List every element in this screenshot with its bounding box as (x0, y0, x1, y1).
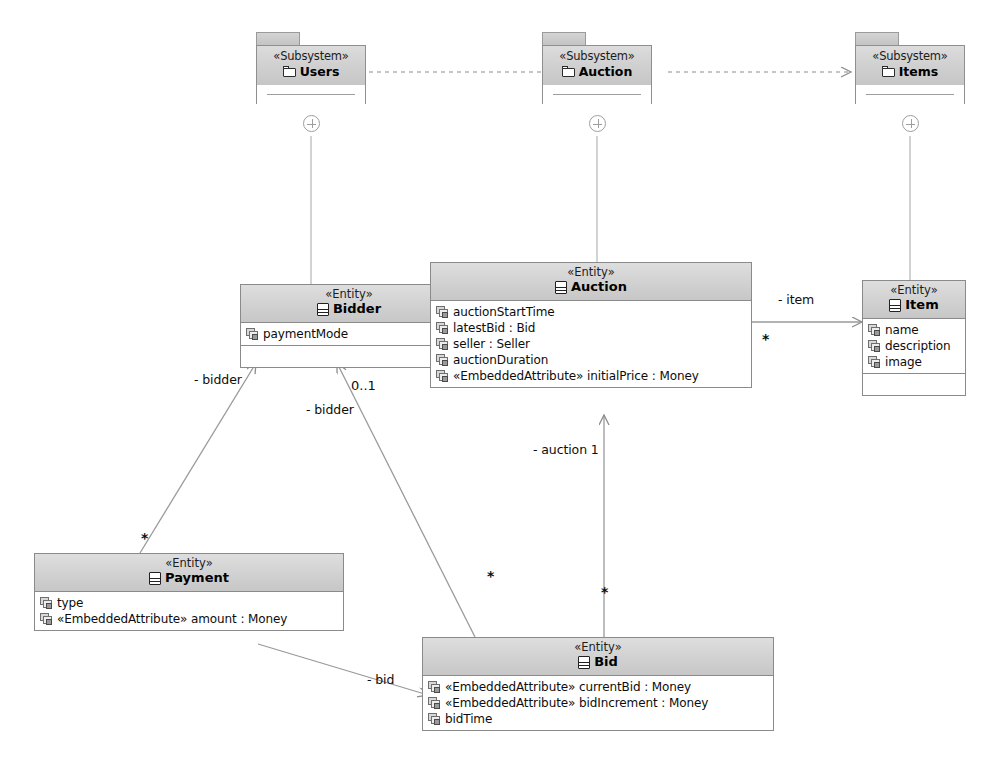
class-bidder[interactable]: «Entity» Bidder paymentMode (240, 284, 458, 368)
attribute-icon (436, 370, 449, 382)
attribute-label: type (57, 595, 83, 611)
class-header: «Entity» Payment (35, 554, 343, 592)
attribute-icon (428, 681, 441, 693)
package-stereotype: «Subsystem» (549, 50, 645, 63)
class-operations-compartment (241, 345, 457, 367)
attribute-row: image (868, 354, 961, 370)
folder-icon (882, 66, 895, 77)
association-payment-to-bidder (140, 363, 256, 553)
package-body: «Subsystem» Auction (542, 45, 652, 104)
class-stereotype: «Entity» (869, 284, 959, 297)
label-bidder-bid-role: - bidder (306, 402, 354, 417)
multiplicity-auction-item: * (762, 334, 769, 344)
entity-icon (578, 656, 590, 669)
attribute-label: «EmbeddedAttribute» amount : Money (57, 611, 287, 627)
attribute-row: description (868, 338, 961, 354)
folder-icon (283, 66, 296, 77)
attribute-label: «EmbeddedAttribute» bidIncrement : Money (445, 695, 708, 711)
multiplicity-payment: * (141, 533, 148, 543)
package-users[interactable]: «Subsystem» Users (256, 32, 366, 104)
package-tab (542, 32, 586, 46)
package-items[interactable]: «Subsystem» Items (855, 32, 965, 104)
class-auction[interactable]: «Entity» Auction auctionStartTime latest… (430, 262, 752, 388)
class-attributes: «EmbeddedAttribute» currentBid : Money «… (423, 676, 773, 730)
attribute-row: «EmbeddedAttribute» bidIncrement : Money (428, 695, 769, 711)
package-name: Items (899, 64, 939, 79)
association-payment-to-bid (258, 644, 428, 695)
multiplicity-bid-to-auction: * (601, 587, 608, 597)
attribute-icon (40, 597, 53, 609)
containment-plus-auction[interactable] (589, 115, 606, 132)
class-attributes: auctionStartTime latestBid : Bid seller … (431, 301, 751, 387)
attribute-icon (40, 613, 53, 625)
association-bid-to-bidder (337, 363, 475, 637)
attribute-icon (868, 340, 881, 352)
class-name: Auction (571, 279, 627, 295)
attribute-label: «EmbeddedAttribute» currentBid : Money (445, 679, 691, 695)
attribute-row: auctionDuration (436, 352, 747, 368)
class-name: Payment (165, 570, 229, 586)
attribute-icon (246, 328, 259, 340)
class-attributes: type «EmbeddedAttribute» amount : Money (35, 592, 343, 630)
label-bidder-payment-role: - bidder (194, 372, 242, 387)
attribute-row: name (868, 322, 961, 338)
multiplicity-bid-to-bidder: * (487, 571, 494, 581)
attribute-icon (436, 306, 449, 318)
class-attributes: paymentMode (241, 323, 457, 345)
uml-class-diagram: «Subsystem» Users «Subsystem» (0, 0, 992, 763)
folder-icon (562, 66, 575, 77)
label-payment-bid-role: - bid (367, 672, 394, 687)
attribute-row: «EmbeddedAttribute» amount : Money (40, 611, 339, 627)
package-header: «Subsystem» Users (257, 46, 365, 85)
attribute-label: «EmbeddedAttribute» initialPrice : Money (453, 368, 699, 384)
attribute-label: auctionDuration (453, 352, 548, 368)
attribute-icon (428, 713, 441, 725)
attribute-row: bidTime (428, 711, 769, 727)
package-name: Users (300, 64, 340, 79)
class-header: «Entity» Bidder (241, 285, 457, 323)
label-auction-role: - auction 1 (533, 442, 599, 457)
class-operations-compartment (863, 373, 965, 395)
label-item-role: - item (778, 292, 814, 307)
attribute-icon (436, 354, 449, 366)
class-payment[interactable]: «Entity» Payment type «EmbeddedAttribute… (34, 553, 344, 631)
class-stereotype: «Entity» (41, 557, 337, 570)
class-attributes: name description image (863, 319, 965, 373)
class-bid[interactable]: «Entity» Bid «EmbeddedAttribute» current… (422, 637, 774, 731)
package-header: «Subsystem» Items (856, 46, 964, 85)
attribute-row: type (40, 595, 339, 611)
package-stereotype: «Subsystem» (263, 50, 359, 63)
package-tab (855, 32, 899, 46)
attribute-row: paymentMode (246, 326, 453, 342)
containment-plus-users[interactable] (303, 115, 320, 132)
package-auction[interactable]: «Subsystem» Auction (542, 32, 652, 104)
entity-icon (555, 281, 567, 294)
entity-icon (889, 299, 901, 312)
package-compartment (257, 85, 365, 111)
attribute-row: «EmbeddedAttribute» initialPrice : Money (436, 368, 747, 384)
package-tab (256, 32, 300, 46)
attribute-label: paymentMode (263, 326, 348, 342)
package-body: «Subsystem» Items (855, 45, 965, 104)
attribute-label: description (885, 338, 951, 354)
attribute-icon (868, 324, 881, 336)
package-header: «Subsystem» Auction (543, 46, 651, 85)
class-header: «Entity» Bid (423, 638, 773, 676)
attribute-icon (428, 697, 441, 709)
class-stereotype: «Entity» (429, 641, 767, 654)
class-item[interactable]: «Entity» Item name description (862, 280, 966, 396)
class-name: Item (905, 297, 938, 313)
class-stereotype: «Entity» (247, 288, 451, 301)
attribute-row: auctionStartTime (436, 304, 747, 320)
entity-icon (149, 572, 161, 585)
attribute-label: seller : Seller (453, 336, 530, 352)
attribute-row: «EmbeddedAttribute» currentBid : Money (428, 679, 769, 695)
containment-plus-items[interactable] (902, 115, 919, 132)
class-stereotype: «Entity» (437, 266, 745, 279)
attribute-row: latestBid : Bid (436, 320, 747, 336)
package-compartment (543, 85, 651, 111)
package-body: «Subsystem» Users (256, 45, 366, 104)
attribute-icon (436, 338, 449, 350)
class-header: «Entity» Item (863, 281, 965, 319)
class-header: «Entity» Auction (431, 263, 751, 301)
